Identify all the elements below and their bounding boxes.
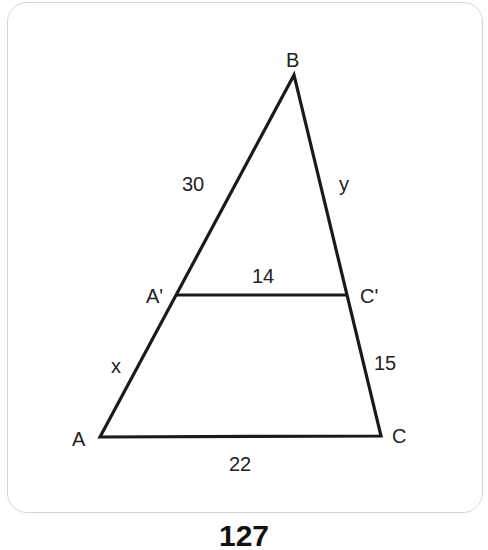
side-label-a-prime-c-prime: 14 xyxy=(252,265,274,287)
side-label-ac: 22 xyxy=(229,453,251,475)
vertex-label-a: A xyxy=(72,428,86,450)
side-label-bc-prime: y xyxy=(339,173,349,195)
vertex-label-c-prime: C' xyxy=(360,285,378,307)
side-label-a-prime-a: x xyxy=(111,355,121,377)
vertex-label-a-prime: A' xyxy=(146,285,163,307)
vertex-label-c: C xyxy=(392,425,406,447)
page-number: 127 xyxy=(0,521,488,550)
side-label-ba-prime: 30 xyxy=(182,173,204,195)
side-label-c-prime-c: 15 xyxy=(374,352,396,374)
triangle-abc xyxy=(100,75,381,437)
vertex-label-b: B xyxy=(286,49,299,71)
